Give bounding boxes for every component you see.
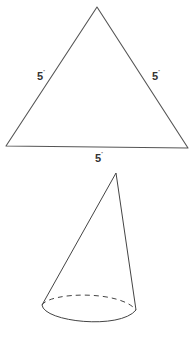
triangle-left-side-label: 5'' [37, 71, 45, 82]
triangle-bottom-side-label: 5'' [95, 153, 103, 164]
cone [42, 173, 136, 322]
equilateral-triangle [6, 7, 188, 148]
diagram-canvas [0, 0, 190, 337]
triangle-right-side-label: 5'' [152, 71, 160, 82]
